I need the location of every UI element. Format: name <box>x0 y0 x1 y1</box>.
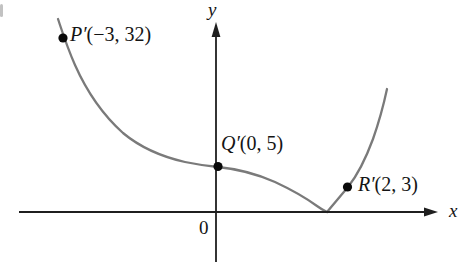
point-p-name: P′ <box>70 23 87 45</box>
origin-label: 0 <box>199 217 209 239</box>
function-curve <box>58 19 387 212</box>
point-label-p: P′(−3, 32) <box>70 23 151 46</box>
point-p-coords: (−3, 32) <box>87 23 152 45</box>
point-p-dot <box>58 33 67 42</box>
y-axis-arrow-icon <box>212 22 221 37</box>
x-axis-label: x <box>449 200 457 222</box>
point-q-coords: (0, 5) <box>240 132 283 154</box>
point-r-dot <box>343 182 352 191</box>
point-q-dot <box>213 162 222 171</box>
x-axis-arrow-icon <box>424 208 438 217</box>
point-q-name: Q′ <box>221 132 240 154</box>
point-r-coords: (2, 3) <box>375 173 418 195</box>
point-r-name: R′ <box>358 173 375 195</box>
point-label-q: Q′(0, 5) <box>221 132 283 155</box>
y-axis-label: y <box>208 0 216 21</box>
function-graph-figure: P′(−3, 32) Q′(0, 5) R′(2, 3) y x 0 <box>0 0 467 275</box>
point-label-r: R′(2, 3) <box>358 173 418 196</box>
